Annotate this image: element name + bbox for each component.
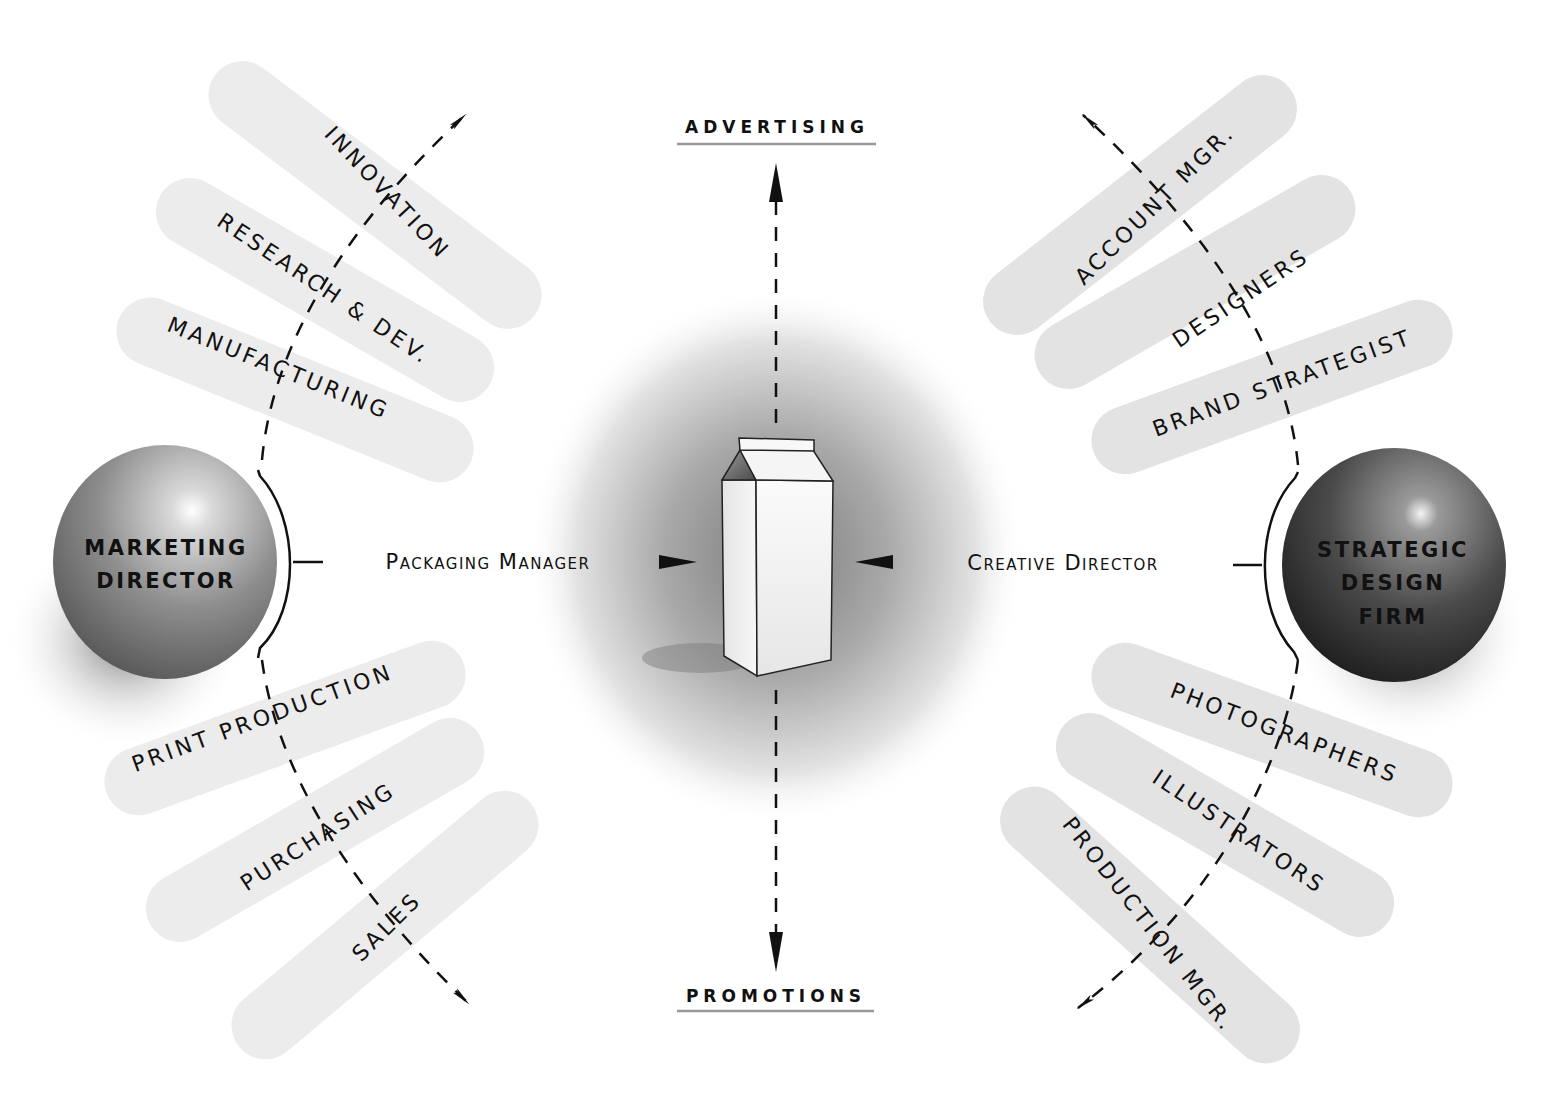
- advertising-label: ADVERTISING: [685, 117, 869, 137]
- promotions-label: PROMOTIONS: [686, 986, 866, 1006]
- right-sphere-label-2: DESIGN: [1341, 571, 1446, 595]
- promotions-arrowhead: [769, 932, 783, 972]
- packaging-diagram: ADVERTISING PROMOTIONS Packaging Manager…: [0, 0, 1564, 1107]
- packaging-manager-label: Packaging Manager: [386, 550, 591, 574]
- strategic-design-firm-sphere: [1282, 448, 1506, 682]
- right-sphere-label-3: FIRM: [1358, 605, 1427, 629]
- left-sphere-label-2: DIRECTOR: [96, 569, 236, 593]
- left-sphere-label-1: MARKETING: [84, 536, 247, 560]
- marketing-director-sphere: [53, 445, 277, 679]
- advertising-arrowhead: [769, 163, 783, 202]
- creative-director-label: Creative Director: [967, 551, 1159, 575]
- right-sphere-label-1: STRATEGIC: [1317, 538, 1469, 562]
- left-upper-pills: [106, 47, 555, 492]
